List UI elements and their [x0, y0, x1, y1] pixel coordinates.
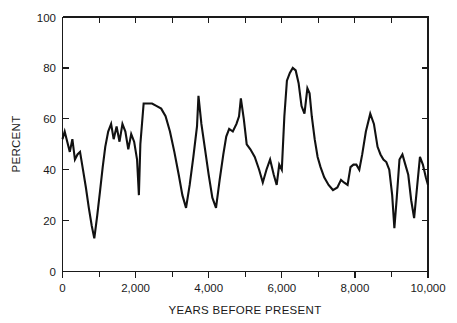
y-tick-label: 20: [43, 215, 56, 227]
x-tick-label: 8,000: [341, 282, 370, 294]
x-tick-label: 4,000: [194, 282, 223, 294]
x-tick-label: 2,000: [121, 282, 150, 294]
y-tick-labels: 100 80 60 40 20 0: [37, 12, 56, 279]
y-tick-label: 40: [43, 164, 56, 176]
axis-spines: [63, 17, 429, 272]
x-tick-label: 0: [59, 282, 65, 294]
y-tick-label: 100: [37, 12, 56, 24]
axis-frame-top-right: [63, 17, 429, 272]
y-axis-ticks-right: [422, 68, 429, 221]
line-chart: 100 80 60 40 20 0 0 2,000 4,000 6,000 8,…: [0, 0, 457, 323]
x-axis-ticks-top: [99, 17, 391, 23]
chart-figure: 100 80 60 40 20 0 0 2,000 4,000 6,000 8,…: [0, 0, 457, 323]
x-axis-title: YEARS BEFORE PRESENT: [169, 304, 322, 316]
x-tick-label: 6,000: [267, 282, 296, 294]
x-tick-labels: 0 2,000 4,000 6,000 8,000 10,000: [59, 282, 445, 294]
data-series-line: [63, 68, 429, 239]
y-tick-label: 80: [43, 62, 56, 74]
axes-frame: [63, 17, 429, 272]
x-tick-label: 10,000: [410, 282, 445, 294]
y-tick-label: 0: [50, 266, 56, 278]
y-axis-title: PERCENT: [10, 115, 22, 172]
y-tick-label: 60: [43, 113, 56, 125]
